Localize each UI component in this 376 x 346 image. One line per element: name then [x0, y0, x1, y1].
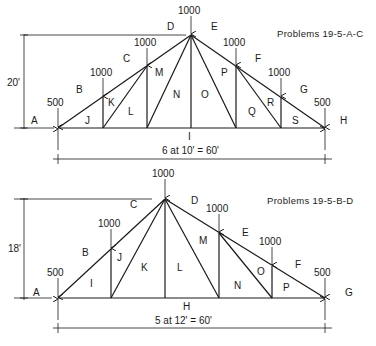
region-label: O [201, 89, 209, 100]
load-label: 500 [314, 267, 331, 278]
region-label: O [257, 266, 265, 277]
region-label: G [345, 287, 353, 298]
region-label: B [76, 84, 83, 95]
load-label: 1000 [152, 168, 175, 179]
region-label: N [234, 280, 241, 291]
region-label: M [155, 67, 163, 78]
region-label: N [173, 89, 180, 100]
truss-b: 18' 500 1000 1000 1000 1000 500 5 [8, 168, 353, 333]
load-label: 500 [47, 97, 64, 108]
top-chord-left [58, 35, 191, 128]
region-label: L [128, 106, 134, 117]
height-label: 18' [8, 243, 21, 254]
region-label: S [292, 115, 299, 126]
region-label: A [31, 115, 38, 126]
span-label: 6 at 10' = 60' [162, 145, 219, 156]
region-label: C [130, 199, 137, 210]
load-label: 1000 [90, 67, 113, 78]
region-label: D [167, 21, 174, 32]
load-label: 1000 [206, 203, 229, 214]
problem-title: Problems 19-5-A-C [277, 28, 363, 39]
region-label: P [283, 282, 290, 293]
load-label: 500 [47, 267, 64, 278]
region-label: R [267, 97, 274, 108]
problem-title: Problems 19-5-B-D [267, 195, 353, 206]
region-label: K [141, 262, 148, 273]
load-label: 500 [314, 97, 331, 108]
top-chord-right [191, 35, 325, 128]
region-label: K [108, 97, 115, 108]
load-label: 1000 [223, 37, 246, 48]
load-label: 1000 [268, 67, 291, 78]
load-label: 1000 [134, 37, 157, 48]
region-label: J [85, 115, 90, 126]
region-label: L [177, 262, 183, 273]
region-label: C [123, 53, 130, 64]
region-label: B [82, 247, 89, 258]
truss-diagram: 20' 500 1000 1000 1000 1000 1000 500 [0, 0, 376, 346]
region-label: E [242, 227, 249, 238]
truss-a: 20' 500 1000 1000 1000 1000 1000 500 [7, 5, 363, 164]
height-label: 20' [7, 77, 20, 88]
load-label: 1000 [178, 5, 201, 16]
span-label: 5 at 12' = 60' [155, 315, 212, 326]
region-label: F [295, 259, 301, 270]
region-label: D [191, 195, 198, 206]
region-label: Q [248, 106, 256, 117]
region-label: J [117, 252, 122, 263]
region-label: F [255, 53, 261, 64]
region-label: H [183, 301, 190, 312]
region-label: I [90, 278, 93, 289]
region-label: G [300, 84, 308, 95]
region-label: I [188, 131, 191, 142]
region-label: H [340, 115, 347, 126]
region-label: E [211, 21, 218, 32]
region-label: P [221, 67, 228, 78]
region-label: M [199, 235, 207, 246]
top-chord-right [165, 199, 325, 298]
region-label: A [33, 287, 40, 298]
load-label: 1000 [259, 236, 282, 247]
load-label: 1000 [98, 218, 121, 229]
